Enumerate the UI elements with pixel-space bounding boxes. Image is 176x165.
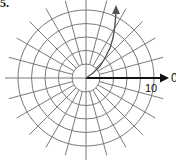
radial-line-315deg: [96, 88, 143, 135]
radial-line-225deg: [29, 88, 76, 135]
polar-graph: 0 10: [0, 0, 176, 165]
polar-axis-arrow-icon: [160, 74, 169, 83]
polar-axis-tick-label: 10: [145, 82, 157, 94]
polar-axis-angle-label: 0: [171, 71, 176, 85]
curve-arrowhead-icon: [112, 5, 120, 14]
radial-line-135deg: [29, 21, 76, 68]
